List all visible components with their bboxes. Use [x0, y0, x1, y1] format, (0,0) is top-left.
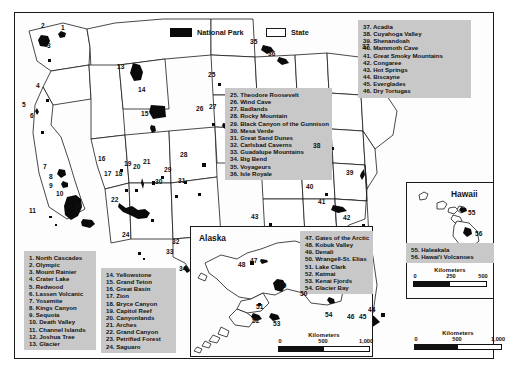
main-scalebar: Kilometers 0 500 1,000: [278, 332, 370, 352]
park-number-label: 1: [61, 24, 65, 31]
park-number-label: 3: [47, 42, 51, 49]
park-number-label: 9: [49, 182, 53, 189]
legend-west: 1. North Cascades 2. Olympic 3. Mount Ra…: [24, 251, 96, 350]
park-number-label: 32: [172, 238, 179, 245]
legend-item: 43. Hot Springs: [363, 66, 466, 73]
map-page: National Park State 37. Acadia 38. Cuyah…: [0, 0, 508, 388]
park-number-label: 33: [166, 248, 173, 255]
park-number-label: 42: [343, 214, 350, 221]
park-number-label: 17: [104, 170, 111, 177]
legend-item: 40. Mammoth Cave: [363, 44, 466, 51]
key-state: State: [266, 28, 309, 37]
legend-item: 46. Dry Tortugas: [363, 87, 466, 94]
legend-item: 9. Sequoia: [29, 311, 91, 318]
scale-tick: 1,000: [359, 338, 373, 344]
park-number-label: 25: [208, 71, 215, 78]
scale-tick: 0: [413, 273, 416, 279]
park-number-label: 43: [251, 213, 258, 220]
alaska-scalebar-bar: [414, 344, 502, 350]
legend-item: 34. Big Bend: [230, 155, 327, 162]
legend-item: 5. Redwood: [29, 283, 91, 290]
legend-item: 49. Denali: [305, 248, 368, 255]
legend-item: 21. Arches: [106, 321, 171, 328]
park-number-label: 44: [368, 306, 375, 313]
legend-item: 15. Grand Teton: [106, 278, 171, 285]
state-key-label: State: [291, 28, 309, 37]
legend-east: 37. Acadia 38. Cuyahoga Valley 39. Shena…: [358, 20, 471, 98]
legend-item: 30. Mesa Verde: [230, 127, 327, 134]
legend-item: 13. Glacier: [29, 340, 91, 347]
national-park-swatch-icon: [170, 28, 192, 37]
hawaii-inset-title: Hawaii: [451, 189, 478, 199]
legend-item: 7. Yosemite: [29, 297, 91, 304]
park-number-label: 53: [273, 320, 280, 327]
park-number-label: 19: [124, 160, 131, 167]
park-number-label: 46: [347, 313, 354, 320]
legend-alaska-list: 47. Gates of the Arctic 48. Kobuk Valley…: [305, 234, 368, 291]
scale-tick: 500: [452, 336, 461, 342]
legend-item: 37. Acadia: [363, 23, 466, 30]
legend-item: 11. Channel Islands: [29, 326, 91, 333]
legend-hawaii: 55. Haleakala 56. Hawai'i Volcanoes: [406, 243, 494, 263]
park-number-label: 20: [133, 163, 140, 170]
legend-item: 51. Lake Clark: [305, 263, 368, 270]
park-number-label: 41: [318, 198, 325, 205]
park-number-label: 56: [475, 230, 482, 237]
legend-item: 18. Bryce Canyon: [106, 300, 171, 307]
legend-item: 27. Badlands: [230, 105, 327, 112]
park-number-label: 22: [111, 196, 118, 203]
legend-southwest: 14. Yellowstone 15. Grand Teton 16. Grea…: [101, 268, 176, 353]
legend-west-list: 1. North Cascades 2. Olympic 3. Mount Ra…: [29, 254, 91, 347]
national-park-key-label: National Park: [197, 28, 244, 37]
park-number-label: 50: [300, 290, 307, 297]
legend-item: 44. Biscayne: [363, 73, 466, 80]
park-number-label: 26: [196, 105, 203, 112]
park-number-label: 31: [178, 177, 185, 184]
legend-item: 50. Wrangell-St. Elias: [305, 255, 368, 262]
park-number-label: 35: [250, 38, 257, 45]
hawaii-inset: Hawaii 55. Haleakala 56. Hawai'i Volcano…: [406, 182, 494, 299]
hawaii-scalebar: Kilometers 0 250 500: [413, 267, 487, 287]
scale-tick: 0: [278, 338, 281, 344]
park-number-label: 23: [127, 206, 134, 213]
legend-item: 14. Yellowstone: [106, 271, 171, 278]
legend-southwest-list: 14. Yellowstone 15. Grand Teton 16. Grea…: [106, 271, 171, 350]
park-number-label: 39: [346, 169, 353, 176]
legend-item: 24. Saguaro: [106, 343, 171, 350]
hawaii-scalebar-bar: [413, 281, 487, 287]
legend-item: 38. Cuyahoga Valley: [363, 30, 466, 37]
legend-item: 6. Lassen Volcanic: [29, 290, 91, 297]
legend-item: 25. Theodore Roosevelt: [230, 91, 327, 98]
alaska-scalebar: Kilometers 0 500 1,000: [414, 330, 502, 350]
park-number-label: 54: [325, 311, 332, 318]
park-number-label: 27: [209, 103, 216, 110]
legend-item: 19. Capitol Reef: [106, 307, 171, 314]
park-number-label: 6: [30, 112, 34, 119]
park-number-label: 2: [41, 22, 45, 29]
legend-item: 41. Great Smoky Mountains: [363, 52, 466, 59]
legend-east-list: 37. Acadia 38. Cuyahoga Valley 39. Shena…: [363, 23, 466, 95]
scale-tick: 250: [446, 273, 455, 279]
scale-tick: 0: [414, 336, 417, 342]
park-number-label: 45: [359, 313, 366, 320]
scale-tick: 500: [318, 338, 327, 344]
park-number-label: 4: [36, 82, 40, 89]
park-number-label: 52: [252, 317, 259, 324]
park-number-label: 8: [49, 173, 53, 180]
legend-central: 25. Theodore Roosevelt 26. Wind Cave 27.…: [225, 88, 332, 180]
legend-alaska: 47. Gates of the Arctic 48. Kobuk Valley…: [300, 231, 373, 294]
legend-item: 33. Guadalupe Mountains: [230, 148, 327, 155]
legend-central-list: 25. Theodore Roosevelt 26. Wind Cave 27.…: [230, 91, 327, 177]
park-number-label: 38: [313, 142, 320, 149]
park-number-label: 12: [74, 202, 81, 209]
park-number-label: 24: [122, 231, 129, 238]
legend-item: 35. Voyageurs: [230, 163, 327, 170]
park-number-label: 49: [279, 282, 286, 289]
legend-item: 4. Crater Lake: [29, 275, 91, 282]
park-number-label: 29: [164, 166, 171, 173]
legend-item: 22. Grand Canyon: [106, 328, 171, 335]
park-number-label: 51: [256, 303, 263, 310]
alaska-inset-title: Alaska: [199, 233, 226, 243]
main-scalebar-bar: [278, 346, 370, 352]
legend-item: 54. Glacier Bay: [305, 284, 368, 291]
